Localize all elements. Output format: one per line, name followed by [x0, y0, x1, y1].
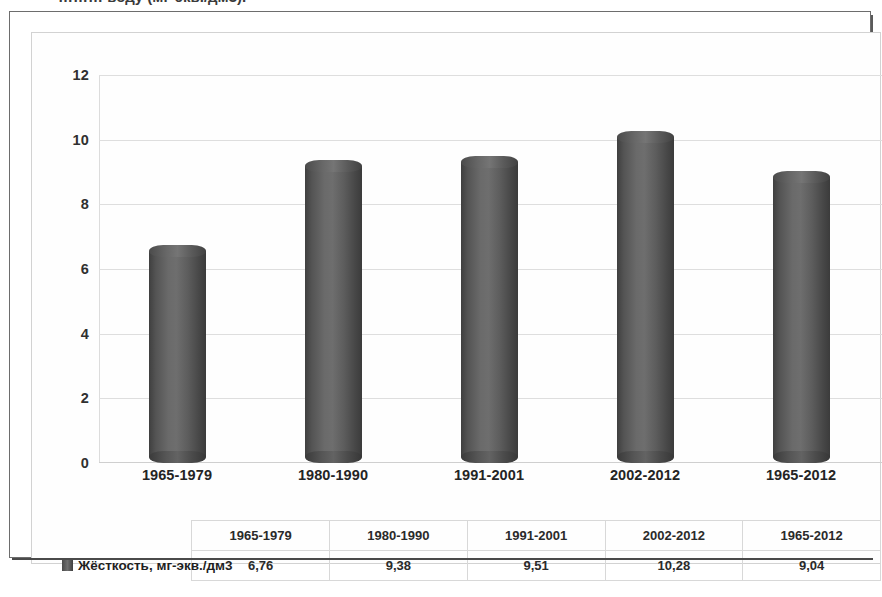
x-tick-label-2: 1980-1990: [255, 467, 411, 483]
table-value-row: Жёсткость, мг-экв./дм3 6,76 9,38 9,51 10…: [54, 551, 881, 581]
y-tick-label: 10: [72, 132, 89, 148]
bar-1965-2012[interactable]: [773, 171, 830, 463]
y-tick-label: 0: [81, 455, 89, 471]
table-value-cell-3: 9,51: [467, 551, 605, 581]
cylinder-body: [617, 137, 674, 457]
cylinder-top-ellipse: [149, 245, 206, 257]
x-axis: 1965-1979 1980-1990 1991-2001 2002-2012 …: [99, 467, 882, 493]
table-value-cell-2: 9,38: [330, 551, 468, 581]
gridline-10: [99, 140, 882, 141]
x-tick-label-5: 1965-2012: [723, 467, 879, 483]
x-tick-label-1: 1965-1979: [99, 467, 255, 483]
cylinder-top-ellipse: [305, 160, 362, 172]
y-tick-label: 4: [81, 326, 89, 342]
y-axis: 12 10 8 6 4 2 0: [32, 75, 94, 463]
bar-1965-1979[interactable]: [149, 245, 206, 464]
table-header-cell-5: 1965-2012: [743, 521, 881, 551]
y-tick-label: 8: [81, 196, 89, 212]
table-header-cell-1: 1965-1979: [192, 521, 330, 551]
y-tick-label: 12: [72, 67, 89, 83]
cropped-caption-strip: ……… воду (мг-экв./дм3).: [0, 0, 881, 9]
cylinder-bottom-ellipse: [773, 451, 830, 463]
cylinder-body: [461, 162, 518, 458]
table-value-cell-5: 9,04: [743, 551, 881, 581]
cylinder-bottom-ellipse: [617, 451, 674, 463]
scanned-page-frame: 12 10 8 6 4 2 0: [9, 11, 871, 558]
table-value-cell-4: 10,28: [605, 551, 743, 581]
table-header-cell-4: 2002-2012: [605, 521, 743, 551]
x-tick-label-4: 2002-2012: [567, 467, 723, 483]
table-header-cell-2: 1980-1990: [330, 521, 468, 551]
y-tick-label: 2: [81, 390, 89, 406]
cylinder-bottom-ellipse: [149, 451, 206, 463]
gridline-12: [99, 75, 882, 76]
plot-area: [99, 75, 882, 463]
bar-1980-1990[interactable]: [305, 160, 362, 463]
cylinder-body: [773, 177, 830, 457]
cylinder-top-ellipse: [773, 171, 830, 183]
cylinder-body: [305, 166, 362, 457]
cylinder-top-ellipse: [461, 156, 518, 168]
x-tick-label-3: 1991-2001: [411, 467, 567, 483]
cropped-caption-text: ……… воду (мг-экв./дм3).: [58, 0, 246, 5]
legend-swatch-icon: [62, 560, 73, 571]
cylinder-bottom-ellipse: [305, 451, 362, 463]
cylinder-top-ellipse: [617, 131, 674, 143]
y-tick-label: 6: [81, 261, 89, 277]
chart-data-table: 1965-1979 1980-1990 1991-2001 2002-2012 …: [54, 520, 881, 578]
legend-entry[interactable]: Жёсткость, мг-экв./дм3: [54, 551, 192, 581]
cylinder-body: [149, 251, 206, 458]
table-corner-cell: [54, 521, 192, 551]
bar-2002-2012[interactable]: [617, 131, 674, 463]
series-name-label: Жёсткость, мг-экв./дм3: [78, 558, 233, 573]
chart-object: 12 10 8 6 4 2 0: [31, 32, 881, 564]
table-header-row: 1965-1979 1980-1990 1991-2001 2002-2012 …: [54, 521, 881, 551]
cylinder-bottom-ellipse: [461, 451, 518, 463]
table-header-cell-3: 1991-2001: [467, 521, 605, 551]
bar-1991-2001[interactable]: [461, 156, 518, 464]
